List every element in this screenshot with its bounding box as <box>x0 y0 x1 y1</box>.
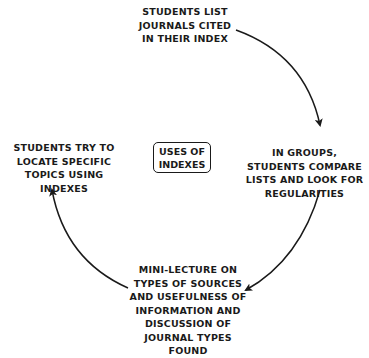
step-text-line: AND USEFULNESS OF <box>108 290 268 304</box>
step-text-line: TYPES OF SOURCES <box>108 277 268 291</box>
step-text-line: REGULARITIES <box>240 187 369 201</box>
step-text-line: STUDENTS TRY TO <box>5 141 123 155</box>
step-compare-lists: IN GROUPS, STUDENTS COMPARE LISTS AND LO… <box>240 146 369 200</box>
step-text-line: DISCUSSION OF <box>108 317 268 331</box>
step-text-line: JOURNAL TYPES <box>108 331 268 345</box>
step-text-line: STUDENTS LIST <box>120 5 250 19</box>
center-label-box: USES OF INDEXES <box>153 142 211 173</box>
step-text-line: INDEXES <box>5 182 123 196</box>
step-text-line: FOUND <box>108 344 268 358</box>
step-text-line: LISTS AND LOOK FOR <box>240 173 369 187</box>
step-text-line: JOURNALS CITED <box>120 19 250 33</box>
step-list-journals: STUDENTS LIST JOURNALS CITED IN THEIR IN… <box>120 5 250 46</box>
step-text-line: MINI-LECTURE ON <box>108 263 268 277</box>
step-mini-lecture: MINI-LECTURE ON TYPES OF SOURCES AND USE… <box>108 263 268 358</box>
step-locate-topics: STUDENTS TRY TO LOCATE SPECIFIC TOPICS U… <box>5 141 123 195</box>
center-label-line: USES OF <box>154 145 210 158</box>
step-text-line: STUDENTS COMPARE <box>240 160 369 174</box>
step-text-line: TOPICS USING <box>5 168 123 182</box>
step-text-line: INFORMATION AND <box>108 304 268 318</box>
center-label-line: INDEXES <box>154 158 210 171</box>
step-text-line: LOCATE SPECIFIC <box>5 155 123 169</box>
step-text-line: IN THEIR INDEX <box>120 32 250 46</box>
step-text-line: IN GROUPS, <box>240 146 369 160</box>
